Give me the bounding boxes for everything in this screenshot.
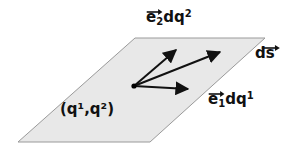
label-e2dq2-subscript: 2 [156,16,163,27]
label-coordinate-point: (q¹,q²) [60,102,114,117]
vector-accent-group-ds: ds [255,44,275,61]
overset-arrow-icon [208,90,225,97]
label-e1dq1-rest: dq [225,90,246,108]
overset-arrow-icon [261,44,281,51]
label-e2dq2: e2 dq2 [146,8,192,27]
vector-accent-group-e1: e1 [208,90,225,109]
vector-surface-diagram: e2 dq2 e1 dq1 ds (q¹,q²) [0,0,293,153]
vector-accent-group-e2: e2 [146,8,163,27]
label-e1dq1-superscript: 1 [247,90,254,101]
origin-point-marker [131,83,136,88]
label-e2dq2-rest: dq [163,8,184,26]
label-e1dq1: e1 dq1 [208,90,254,109]
label-e2dq2-superscript: 2 [185,8,192,19]
overset-arrow-icon [146,8,163,15]
label-e1dq1-subscript: 1 [218,98,225,109]
label-ds: ds [255,44,275,61]
